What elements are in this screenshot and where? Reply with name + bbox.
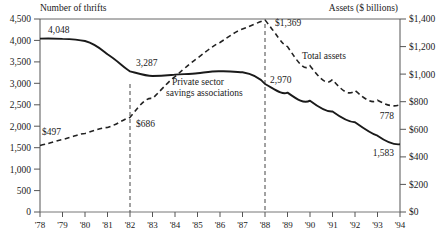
plot-frame [40,19,400,212]
x-tick-label-1992: '92 [350,220,361,230]
right-tick-label-1000: $1,000 [409,70,435,80]
x-tick-label-1981: '81 [102,220,113,230]
x-tick-label-1982: '82 [125,220,136,230]
left-axis-title: Number of thrifts [40,3,107,13]
left-axis-ticks: 0 500 1,000 1,500 2,000 2,500 3,000 3,50… [10,14,40,217]
annotation-778: 778 [380,111,395,121]
annotation-1369: $1,369 [275,18,301,28]
right-tick-label-600: $600 [409,125,428,135]
right-tick-label-1200: $1,200 [409,42,435,52]
x-tick-label-1986: '86 [215,220,226,230]
x-tick-label-1980: '80 [80,220,91,230]
x-tick-label-1991: '91 [327,220,338,230]
left-tick-label-2500: 2,500 [10,100,32,110]
x-tick-label-1985: '85 [192,220,203,230]
annotation-686: $686 [136,119,155,129]
annotation-4048: 4,048 [48,25,70,35]
right-tick-label-0: $0 [409,207,419,217]
series-label-private-sector-line1: Private sector [172,77,225,87]
right-axis-ticks: $0 $200 $400 $600 $800 $1,000 $1,200 $1,… [400,14,435,217]
x-tick-label-1993: '93 [372,220,383,230]
x-tick-label-1984: '84 [170,220,181,230]
x-tick-label-1979: '79 [57,220,68,230]
left-tick-label-4000: 4,000 [10,36,32,46]
x-tick-label-1989: '89 [282,220,293,230]
left-tick-label-2000: 2,000 [10,122,32,132]
thrifts-assets-chart: Number of thrifts Assets ($ billions) 0 … [0,0,436,241]
x-tick-label-1983: '83 [147,220,158,230]
series-label-private-sector-line2: savings associations [166,88,243,98]
annotation-3287: 3,287 [136,58,158,68]
x-tick-label-1988: '88 [260,220,271,230]
left-tick-label-0: 0 [26,207,31,217]
left-tick-label-4500: 4,500 [10,14,32,24]
annotation-1583: 1,583 [373,148,395,158]
left-tick-label-1000: 1,000 [10,165,32,175]
right-tick-label-800: $800 [409,97,428,107]
x-tick-label-1990: '90 [305,220,316,230]
x-tick-label-1994: '94 [395,220,406,230]
annotation-497: $497 [42,127,61,137]
right-tick-label-200: $200 [409,180,428,190]
series-label-total-assets: Total assets [302,51,346,61]
right-tick-label-1400: $1,400 [409,14,435,24]
x-tick-label-1978: '78 [35,220,46,230]
left-tick-label-500: 500 [17,186,32,196]
right-tick-label-400: $400 [409,152,428,162]
left-tick-label-1500: 1,500 [10,143,32,153]
chart-svg: Number of thrifts Assets ($ billions) 0 … [0,0,436,241]
x-axis-ticks: '78 '79 '80 '81 '82 '83 '84 '85 '86 '87 … [35,212,406,230]
left-tick-label-3000: 3,000 [10,79,32,89]
annotation-2970: 2,970 [270,75,292,85]
left-tick-label-3500: 3,500 [10,57,32,67]
x-tick-label-1987: '87 [237,220,248,230]
right-axis-title: Assets ($ billions) [329,3,398,14]
